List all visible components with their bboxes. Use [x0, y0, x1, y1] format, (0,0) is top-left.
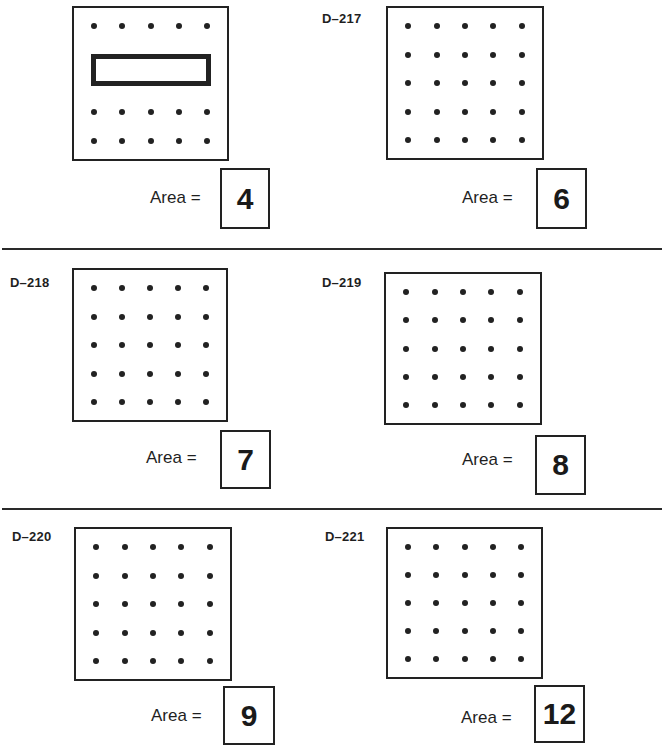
- grid-dot: [434, 23, 440, 29]
- grid-dot: [175, 314, 181, 320]
- dot-grid[interactable]: [74, 527, 232, 681]
- grid-dot: [178, 573, 184, 579]
- area-label: Area =: [462, 450, 513, 470]
- grid-dot: [460, 317, 466, 323]
- grid-dot: [91, 314, 97, 320]
- grid-dot: [405, 628, 411, 634]
- grid-dot: [150, 630, 156, 636]
- grid-dot: [91, 23, 97, 29]
- dot-grid[interactable]: [384, 272, 542, 425]
- grid-dot: [462, 80, 468, 86]
- grid-dot: [405, 23, 411, 29]
- grid-dot: [203, 371, 209, 377]
- grid-dot: [405, 52, 411, 58]
- grid-dot: [460, 346, 466, 352]
- problem-label: D–220: [12, 529, 51, 544]
- area-label: Area =: [462, 188, 513, 208]
- grid-dot: [518, 544, 524, 550]
- section-divider: [2, 508, 662, 510]
- grid-dot: [460, 374, 466, 380]
- grid-dot: [119, 285, 125, 291]
- grid-dot: [519, 52, 525, 58]
- grid-dot: [207, 658, 213, 664]
- grid-dot: [147, 342, 153, 348]
- grid-dot: [405, 544, 411, 550]
- grid-dot: [148, 138, 154, 144]
- area-label: Area =: [151, 706, 202, 726]
- problem-label: D–221: [325, 529, 364, 544]
- grid-dot: [148, 23, 154, 29]
- grid-dot: [91, 285, 97, 291]
- grid-dot: [517, 402, 523, 408]
- drawn-rectangle-shape: [91, 54, 211, 86]
- grid-dot: [405, 600, 411, 606]
- grid-dot: [203, 285, 209, 291]
- grid-dot: [207, 573, 213, 579]
- answer-box[interactable]: 6: [536, 168, 587, 229]
- grid-dot: [203, 399, 209, 405]
- grid-dot: [204, 23, 210, 29]
- grid-dot: [517, 346, 523, 352]
- dot-grid[interactable]: [386, 527, 543, 679]
- grid-dot: [462, 628, 468, 634]
- grid-dot: [150, 544, 156, 550]
- grid-dot: [93, 601, 99, 607]
- grid-dot: [178, 544, 184, 550]
- grid-dot: [518, 572, 524, 578]
- grid-dot: [175, 399, 181, 405]
- grid-dot: [405, 656, 411, 662]
- grid-dot: [203, 342, 209, 348]
- problem-label: D–217: [322, 11, 361, 26]
- grid-dot: [405, 572, 411, 578]
- answer-box[interactable]: 12: [534, 685, 585, 743]
- grid-dot: [147, 399, 153, 405]
- grid-dot: [91, 109, 97, 115]
- answer-box[interactable]: 7: [220, 430, 271, 489]
- answer-box[interactable]: 4: [220, 168, 270, 229]
- answer-box[interactable]: 8: [535, 435, 586, 495]
- grid-dot: [119, 371, 125, 377]
- grid-dot: [462, 600, 468, 606]
- grid-dot: [403, 346, 409, 352]
- grid-dot: [462, 544, 468, 550]
- grid-dot: [93, 544, 99, 550]
- grid-dot: [488, 374, 494, 380]
- grid-dot: [176, 109, 182, 115]
- grid-dot: [462, 137, 468, 143]
- grid-dot: [490, 544, 496, 550]
- grid-dot: [119, 342, 125, 348]
- grid-dot: [462, 656, 468, 662]
- area-label: Area =: [461, 708, 512, 728]
- grid-dot: [490, 572, 496, 578]
- grid-dot: [405, 137, 411, 143]
- grid-dot: [147, 285, 153, 291]
- grid-dot: [433, 600, 439, 606]
- grid-dot: [176, 138, 182, 144]
- grid-dot: [488, 402, 494, 408]
- grid-dot: [518, 628, 524, 634]
- grid-dot: [518, 600, 524, 606]
- grid-dot: [490, 137, 496, 143]
- area-label: Area =: [146, 448, 197, 468]
- answer-box[interactable]: 9: [223, 686, 275, 745]
- grid-dot: [490, 23, 496, 29]
- area-label: Area =: [150, 188, 201, 208]
- grid-dot: [175, 342, 181, 348]
- grid-dot: [93, 573, 99, 579]
- grid-dot: [517, 317, 523, 323]
- grid-dot: [119, 23, 125, 29]
- grid-dot: [432, 402, 438, 408]
- grid-dot: [462, 23, 468, 29]
- grid-dot: [519, 137, 525, 143]
- grid-dot: [207, 601, 213, 607]
- grid-dot: [176, 23, 182, 29]
- problem-label: D–219: [322, 275, 361, 290]
- dot-grid[interactable]: [386, 6, 544, 160]
- dot-grid[interactable]: [72, 268, 228, 422]
- grid-dot: [405, 109, 411, 115]
- grid-dot: [517, 289, 523, 295]
- grid-dot: [490, 628, 496, 634]
- grid-dot: [519, 109, 525, 115]
- grid-dot: [432, 374, 438, 380]
- grid-dot: [178, 630, 184, 636]
